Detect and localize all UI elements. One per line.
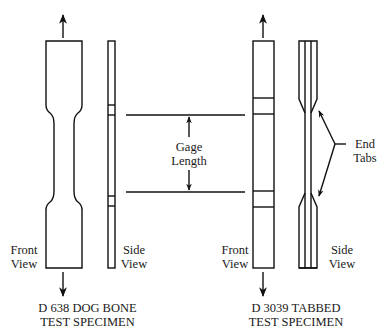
label-line: End [347,137,383,151]
label-line: Gage [167,140,211,154]
caption-line: TEST SPECIMEN [20,315,155,329]
label-line: Side [326,243,358,257]
label-line: View [5,257,43,271]
end-tabs-label: End Tabs [347,137,383,165]
label-line: View [326,257,358,271]
caption-line: D 638 DOG BONE [20,301,155,315]
label-line: Front [216,243,254,257]
dogbone-front-view-label: Front View [5,243,43,271]
tabbed-caption: D 3039 TABBED TEST SPECIMEN [231,301,361,329]
dogbone-side-view [108,41,115,268]
end-tab-arrow-upper-icon [319,111,335,144]
label-line: Front [5,243,43,257]
tabbed-side-view-label: Side View [326,243,358,271]
tabbed-side-view [299,41,317,268]
label-line: Tabs [347,151,383,165]
dogbone-side-view-label: Side View [118,243,150,271]
label-line: Length [167,154,211,168]
dogbone-front-view [46,41,82,268]
label-line: View [216,257,254,271]
dogbone-caption: D 638 DOG BONE TEST SPECIMEN [20,301,155,329]
gage-length-label: Gage Length [167,140,211,168]
label-line: View [118,257,150,271]
end-tab-arrow-lower-icon [319,144,335,196]
tabbed-front-view-label: Front View [216,243,254,271]
tabbed-front-view [253,41,274,268]
end-tabs-pointer [319,111,346,196]
caption-line: TEST SPECIMEN [231,315,361,329]
label-line: Side [118,243,150,257]
caption-line: D 3039 TABBED [231,301,361,315]
